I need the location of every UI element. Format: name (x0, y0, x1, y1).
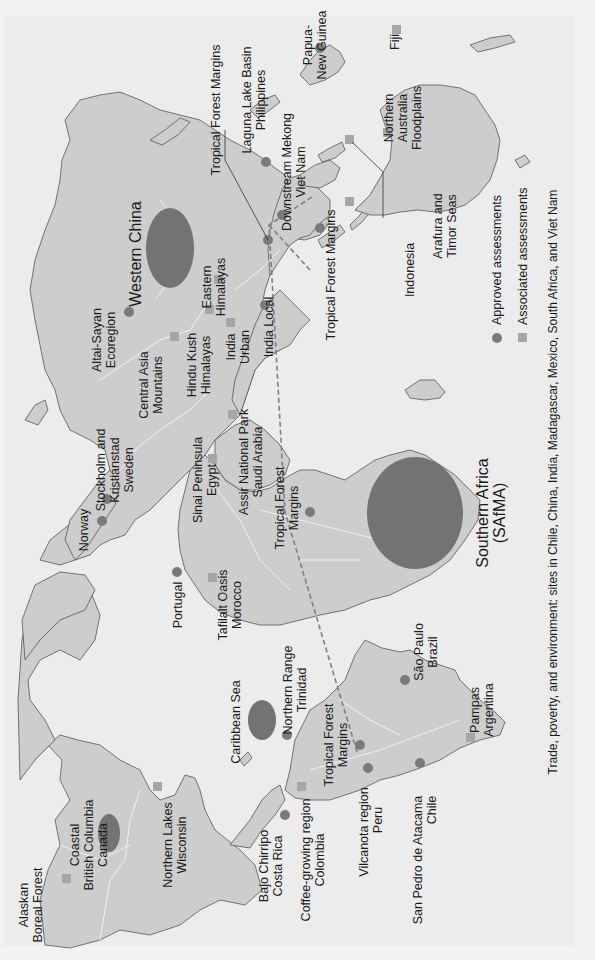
site-fiji[interactable] (392, 25, 401, 34)
site-bajo-chirripo[interactable] (280, 810, 290, 820)
site-vilcanota[interactable] (363, 763, 373, 773)
legend-approved-icon (492, 333, 502, 343)
legend-associated-icon (518, 333, 527, 342)
label-fiji: Fiji (388, 34, 402, 50)
caribbean-sea-area[interactable] (248, 700, 276, 740)
southern-africa-area[interactable] (367, 457, 463, 569)
site-portugal[interactable] (172, 567, 182, 577)
world-map: AlaskanBoreal Forest CoastalBritish Colu… (0, 0, 595, 960)
label-tfm-asia: Tropical Forest Margins (209, 45, 223, 176)
site-sao-paulo[interactable] (400, 675, 410, 685)
map-caption: Trade, poverty, and environment: sites i… (546, 190, 560, 775)
label-caribbean: Caribbean Sea (229, 680, 243, 763)
label-altai: Altai-SayanEcoregion (90, 308, 118, 372)
label-tfm-indonesia: Tropical Forest Margins (324, 210, 338, 341)
site-northern-lakes[interactable] (153, 782, 162, 791)
label-india-urban: IndiaUrban (224, 330, 252, 364)
site-sinai[interactable] (208, 454, 217, 463)
legend-approved-label: Approved assessments (490, 195, 504, 325)
label-norway: Norway (77, 508, 91, 551)
site-norway[interactable] (97, 516, 107, 526)
site-tfm-africa[interactable] (305, 507, 315, 517)
label-arafura: Arafura andTimor Seas (431, 193, 459, 258)
label-indonesia: Indonesia (403, 243, 417, 297)
site-san-pedro-atacama[interactable] (415, 758, 425, 768)
site-india-urban[interactable] (226, 318, 235, 327)
site-indonesia[interactable] (345, 197, 354, 206)
label-pampas: PampasArgentina (468, 683, 496, 737)
label-portugal: Portugal (171, 582, 185, 629)
label-india-local: India Local (262, 297, 276, 357)
site-laguna-lake[interactable] (261, 157, 271, 167)
site-pampas[interactable] (466, 733, 475, 742)
label-hindu-kush: Hindu KushHimalayas (185, 333, 213, 398)
label-eastern-himalayas: EasternHimalayas (200, 258, 228, 316)
site-central-asia[interactable] (170, 332, 179, 341)
site-alaskan-boreal[interactable] (62, 874, 71, 883)
western-china-area[interactable] (146, 208, 194, 288)
label-western-china: Western China (127, 201, 144, 307)
site-tfm-south-america[interactable] (355, 740, 365, 750)
label-bajo-chirripo: Bajo ChirripoCosta Rica (257, 830, 285, 902)
site-coffee-colombia[interactable] (297, 782, 306, 791)
site-altai-sayan[interactable] (124, 307, 134, 317)
label-central-asia: Central AsiaMountains (137, 351, 165, 418)
site-assir[interactable] (228, 410, 237, 419)
legend-associated-label: Associated assessments (516, 187, 530, 325)
label-northern-australia: NorthernAustraliaFloodplains (382, 86, 424, 150)
